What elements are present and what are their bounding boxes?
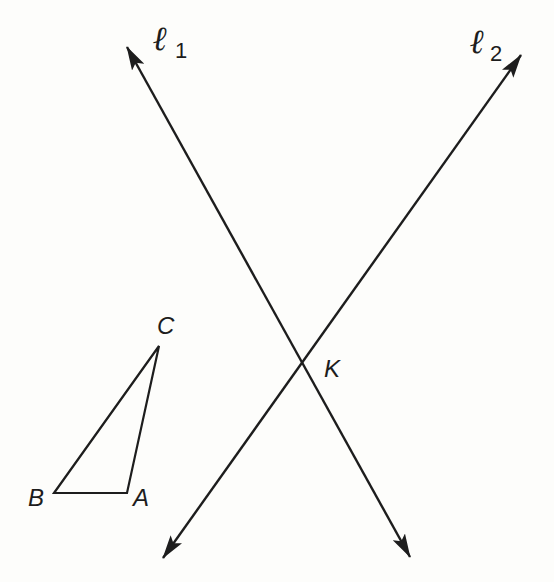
triangle-abc: [54, 346, 159, 493]
subscript-l2: 2: [490, 41, 502, 66]
label-c: C: [157, 312, 175, 339]
label-l2: ℓ 2: [470, 21, 502, 66]
label-k: K: [324, 355, 341, 382]
label-a: A: [131, 484, 149, 511]
line-l2: [163, 55, 521, 558]
label-l1: ℓ 1: [153, 18, 187, 63]
line-l1: [127, 47, 410, 557]
ell-symbol-l1: ℓ: [153, 18, 168, 58]
ell-symbol-l2: ℓ: [470, 21, 485, 61]
geometry-diagram: ℓ 1 ℓ 2 K C B A: [0, 0, 554, 582]
subscript-l1: 1: [175, 38, 187, 63]
label-b: B: [28, 484, 44, 511]
